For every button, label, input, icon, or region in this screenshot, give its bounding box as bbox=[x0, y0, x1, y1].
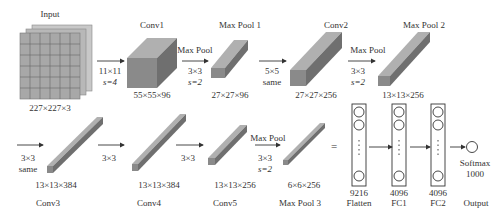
pool3-op-title: Max Pool bbox=[250, 133, 285, 143]
conv5-label: Conv5 bbox=[213, 198, 237, 208]
conv2-label: Conv2 bbox=[324, 20, 348, 30]
fc1-size: 4096 bbox=[390, 188, 408, 198]
maxpool1-volume bbox=[211, 40, 248, 78]
conv3-padding: same bbox=[19, 164, 38, 174]
conv5-volume bbox=[208, 125, 247, 165]
flatten-label: Flatten bbox=[347, 198, 372, 208]
conv1-stride: s=4 bbox=[103, 77, 117, 87]
pool1-stride: s=2 bbox=[188, 77, 202, 87]
conv1-shape: 55×55×96 bbox=[133, 90, 170, 100]
equals-sign: = bbox=[331, 141, 337, 151]
maxpool2-volume bbox=[378, 32, 430, 86]
pool2-label: Max Pool 2 bbox=[403, 20, 445, 30]
pool3-shape: 6×6×256 bbox=[288, 180, 321, 190]
fc2-column bbox=[431, 104, 445, 186]
input-shape: 227×227×3 bbox=[29, 103, 71, 113]
conv2-kernel: 5×5 bbox=[265, 66, 279, 76]
conv4-shape: 13×13×384 bbox=[138, 180, 180, 190]
conv3-kernel: 3×3 bbox=[21, 153, 35, 163]
output-label: Output bbox=[463, 198, 488, 208]
maxpool3-volume bbox=[283, 123, 325, 165]
conv4-kernel: 3×3 bbox=[102, 153, 116, 163]
output-node bbox=[467, 142, 478, 153]
pool3-stride: s=2 bbox=[258, 164, 272, 174]
conv3-shape: 13×13×384 bbox=[35, 180, 77, 190]
conv5-shape: 13×13×256 bbox=[214, 180, 256, 190]
pool1-kernel: 3×3 bbox=[188, 66, 202, 76]
pool1-shape: 27×27×96 bbox=[211, 90, 248, 100]
output-activation: Softmax bbox=[460, 158, 491, 168]
pool3-label: Max Pool 3 bbox=[279, 198, 321, 208]
flatten-size: 9216 bbox=[350, 188, 368, 198]
conv5-kernel: 3×3 bbox=[181, 153, 195, 163]
pool1-op-title: Max Pool bbox=[177, 45, 212, 55]
pool2-shape: 13×13×256 bbox=[382, 90, 424, 100]
conv2-shape: 27×27×256 bbox=[295, 90, 337, 100]
conv1-volume bbox=[127, 38, 177, 88]
conv1-label: Conv1 bbox=[140, 20, 164, 30]
pool3-kernel: 3×3 bbox=[258, 153, 272, 163]
pool2-kernel: 3×3 bbox=[351, 66, 365, 76]
conv4-label: Conv4 bbox=[137, 198, 161, 208]
conv2-volume bbox=[290, 32, 342, 86]
output-size: 1000 bbox=[466, 169, 484, 179]
fc1-label: FC1 bbox=[391, 198, 407, 208]
conv4-volume bbox=[132, 114, 186, 171]
fc1-column bbox=[392, 104, 406, 186]
conv3-label: Conv3 bbox=[36, 198, 60, 208]
conv1-kernel: 11×11 bbox=[99, 66, 121, 76]
input-volume bbox=[20, 25, 92, 99]
pool2-stride: s=2 bbox=[351, 77, 365, 87]
pool1-label: Max Pool 1 bbox=[219, 20, 261, 30]
conv2-padding: same bbox=[263, 77, 282, 87]
pool2-op-title: Max Pool bbox=[350, 45, 385, 55]
fc2-label: FC2 bbox=[430, 198, 446, 208]
conv3-volume bbox=[47, 117, 103, 173]
flatten-column bbox=[352, 104, 366, 186]
fc2-size: 4096 bbox=[429, 188, 447, 198]
input-label: Input bbox=[41, 9, 60, 19]
